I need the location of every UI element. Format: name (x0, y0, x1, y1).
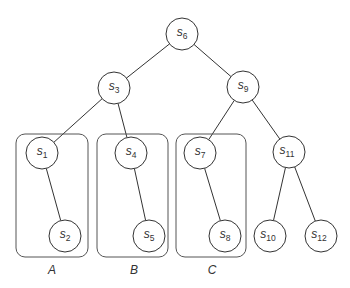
node-s1: s1 (26, 137, 58, 169)
group-label: B (130, 263, 138, 277)
edge-s11-s12 (295, 167, 316, 221)
node-s9: s9 (227, 71, 259, 103)
node-s4: s4 (115, 137, 147, 169)
node-s5: s5 (133, 220, 165, 252)
edge-s7-s8 (205, 168, 221, 220)
edges-layer (46, 44, 315, 221)
tree-diagram: ABC s6s3s9s1s2s4s5s7s8s11s10s12 (0, 0, 350, 288)
node-s12: s12 (305, 220, 337, 252)
node-s7: s7 (184, 137, 216, 169)
node-s8: s8 (209, 220, 241, 252)
edge-s6-s9 (194, 44, 231, 76)
node-s10: s10 (254, 220, 286, 252)
edge-s1-s2 (46, 168, 60, 220)
edge-s3-s4 (118, 103, 127, 137)
edge-s6-s3 (127, 44, 170, 78)
node-s3: s3 (98, 72, 130, 104)
edge-s3-s1 (54, 99, 102, 143)
edge-s9-s11 (252, 100, 280, 139)
edge-s11-s10 (274, 168, 286, 221)
node-s11: s11 (273, 136, 305, 168)
node-s6: s6 (166, 18, 198, 50)
edge-s4-s5 (134, 169, 145, 221)
group-label: C (208, 263, 217, 277)
group-label: A (47, 263, 56, 277)
node-s2: s2 (49, 220, 81, 252)
